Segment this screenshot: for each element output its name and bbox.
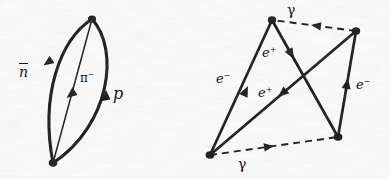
paper-texture xyxy=(0,0,390,179)
electron-left-symbol: e xyxy=(216,71,224,86)
label-electron-right: e− xyxy=(356,78,370,91)
label-photon-top: γ xyxy=(287,3,295,17)
pion-symbol: π xyxy=(80,71,88,85)
electron-right-symbol: e xyxy=(356,77,364,92)
positron-lower-charge: + xyxy=(266,85,273,94)
label-positron-upper: e+ xyxy=(262,46,276,59)
antineutron-overbar: n xyxy=(19,63,28,79)
label-antineutron: n xyxy=(19,63,28,79)
positron-upper-symbol: e xyxy=(262,45,270,60)
label-electron-left: e− xyxy=(216,72,230,85)
figure-vector-canvas xyxy=(0,0,390,179)
positron-lower-symbol: e xyxy=(258,85,266,100)
physics-figure: n π− p γ γ e− e− e+ e+ xyxy=(0,0,390,179)
label-photon-bottom: γ xyxy=(238,157,246,171)
pion-charge: − xyxy=(88,70,94,79)
electron-left-charge: − xyxy=(224,71,231,80)
label-positron-lower: e+ xyxy=(258,86,272,99)
label-proton: p xyxy=(113,86,123,102)
positron-upper-charge: + xyxy=(270,45,277,54)
electron-right-charge: − xyxy=(364,77,371,86)
label-pion: π− xyxy=(80,72,94,84)
